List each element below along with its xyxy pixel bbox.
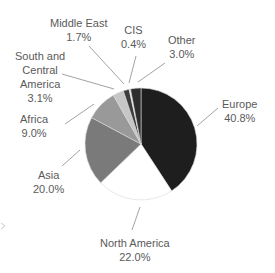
label-name-line3: America xyxy=(15,77,65,91)
label-name: Other xyxy=(168,33,196,47)
label-africa: Africa 9.0% xyxy=(20,112,48,140)
label-europe: Europe 40.8% xyxy=(222,97,257,125)
pie-slices xyxy=(85,88,197,200)
label-other: Other 3.0% xyxy=(168,33,196,61)
label-value: 1.7% xyxy=(50,30,107,44)
label-value: 22.0% xyxy=(100,250,170,264)
label-name: Middle East xyxy=(50,16,107,30)
label-value: 3.0% xyxy=(168,47,196,61)
label-south-central-america: South and Central America 3.1% xyxy=(15,49,65,105)
diamond-marker-icon xyxy=(0,222,8,230)
label-value: 0.4% xyxy=(121,37,146,51)
label-north-america: North America 22.0% xyxy=(100,236,170,264)
label-value: 20.0% xyxy=(33,182,64,196)
label-name: Africa xyxy=(20,112,48,126)
label-name-line1: South and xyxy=(15,49,65,63)
label-name: Asia xyxy=(33,168,64,182)
label-asia: Asia 20.0% xyxy=(33,168,64,196)
label-cis: CIS 0.4% xyxy=(121,23,146,51)
label-middle-east: Middle East 1.7% xyxy=(50,16,107,44)
label-name: CIS xyxy=(121,23,146,37)
label-name: Europe xyxy=(222,97,257,111)
label-value: 9.0% xyxy=(20,126,48,140)
label-value: 3.1% xyxy=(15,91,65,105)
label-value: 40.8% xyxy=(222,111,257,125)
label-name: North America xyxy=(100,236,170,250)
label-name-line2: Central xyxy=(15,63,65,77)
